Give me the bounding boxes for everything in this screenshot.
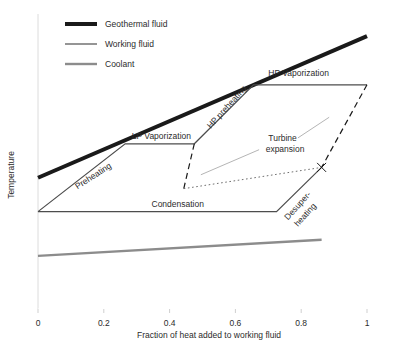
legend-label-geothermal-fluid: Geothermal fluid: [105, 19, 168, 29]
x-tick-label: 0.4: [164, 318, 176, 328]
x-tick-label: 1: [365, 318, 370, 328]
chart-annotation: Condensation: [152, 199, 205, 209]
legend-label-working-fluid: Working fluid: [105, 39, 154, 49]
x-tick-label: 0.8: [295, 318, 307, 328]
chart-annotation: LP Vaporization: [132, 131, 191, 141]
x-tick-label: 0.6: [229, 318, 241, 328]
chart-annotation: expansion: [266, 144, 305, 154]
x-axis-title: Fraction of heat added to working fluid: [137, 330, 281, 340]
legend-label-coolant: Coolant: [105, 59, 135, 69]
x-tick-label: 0: [36, 318, 41, 328]
figure-background: [0, 0, 400, 351]
chart-annotation: HP Vaporization: [268, 68, 329, 78]
chart-annotation: Turbine: [268, 133, 297, 143]
y-axis-title: Temperature: [6, 151, 16, 199]
chart-figure: 00.20.40.60.81 Fraction of heat added to…: [0, 0, 400, 351]
x-tick-label: 0.2: [98, 318, 110, 328]
